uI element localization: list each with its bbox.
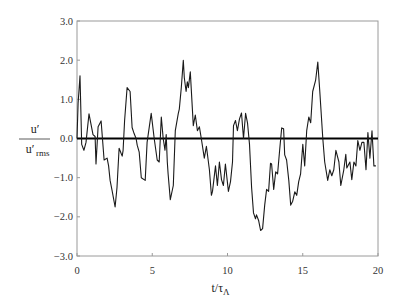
x-tick-label: 20: [373, 265, 384, 276]
x-axis-title-sub: Λ: [223, 287, 230, 297]
y-tick-label: −2.0: [54, 211, 73, 222]
x-tick-label: 15: [298, 265, 309, 276]
y-axis-title: u′ u′ rms: [19, 122, 50, 158]
x-tick-label: 5: [150, 265, 155, 276]
y-tick-label: −3.0: [54, 251, 73, 262]
y-axis-title-numerator: u′: [31, 122, 40, 136]
y-tick-label: 0.0: [60, 133, 73, 144]
y-axis-title-denominator-sub: rms: [36, 148, 50, 158]
y-tick-label: 1.0: [60, 94, 73, 105]
y-axis-ticks: 3.02.01.00.0−1.0−2.0−3.0: [54, 16, 80, 262]
y-tick-label: 3.0: [60, 16, 73, 27]
x-axis-title-main: t/τ: [212, 281, 224, 295]
y-tick-label: 2.0: [60, 55, 73, 66]
x-axis-title: t/τ Λ: [212, 281, 231, 297]
y-tick-label: −1.0: [54, 172, 73, 183]
line-chart: 3.02.01.00.0−1.0−2.0−3.0 05101520 u′ u′ …: [0, 0, 405, 307]
x-tick-label: 0: [74, 265, 79, 276]
y-axis-title-denominator: u′: [26, 142, 35, 156]
x-tick-label: 10: [222, 265, 233, 276]
